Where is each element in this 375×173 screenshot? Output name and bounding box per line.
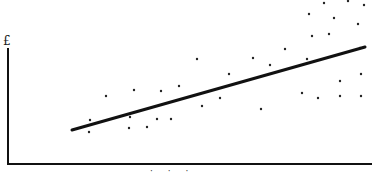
data-point: [170, 118, 172, 120]
data-point: [284, 48, 286, 50]
data-point: [89, 119, 91, 121]
data-point: [360, 73, 362, 75]
data-point: [228, 73, 230, 75]
y-axis-label: £: [3, 34, 11, 48]
data-point: [311, 35, 313, 37]
data-point: [156, 118, 158, 120]
data-point: [88, 131, 90, 133]
data-point: [323, 2, 325, 4]
data-point: [269, 64, 271, 66]
scatter-chart: [0, 0, 375, 173]
data-point: [333, 17, 335, 19]
data-point: [328, 33, 330, 35]
data-point: [160, 90, 162, 92]
trend-line: [72, 47, 365, 130]
data-point: [360, 95, 362, 97]
data-point: [196, 58, 198, 60]
data-point: [347, 0, 349, 2]
data-point: [339, 80, 341, 82]
data-point: [301, 92, 303, 94]
data-point: [178, 85, 180, 87]
data-point: [317, 97, 319, 99]
data-point: [306, 58, 308, 60]
data-point: [308, 13, 310, 15]
data-point: [133, 89, 135, 91]
data-point: [219, 97, 221, 99]
data-point: [363, 4, 365, 6]
data-point: [146, 126, 148, 128]
data-point: [357, 23, 359, 25]
data-point: [201, 105, 203, 107]
data-point: [260, 108, 262, 110]
x-axis-label: · · ·: [150, 166, 194, 173]
data-point: [252, 57, 254, 59]
data-point: [105, 95, 107, 97]
data-point: [129, 116, 131, 118]
data-point: [339, 95, 341, 97]
data-point: [128, 127, 130, 129]
